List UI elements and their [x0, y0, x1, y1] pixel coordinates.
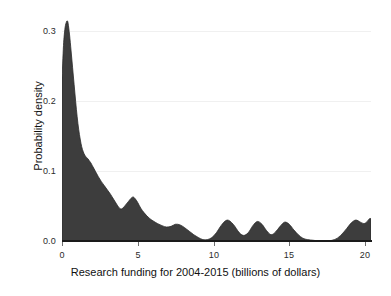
- x-tick-mark-15: [289, 242, 290, 246]
- y-axis-title-wrap: Probability density: [10, 0, 24, 240]
- x-tick-mark-10: [214, 242, 215, 246]
- x-tick-label-10: 10: [197, 250, 231, 260]
- x-tick-label-20: 20: [348, 250, 382, 260]
- y-tick-label-0-0: 0.0: [43, 236, 56, 246]
- y-tick-label-0-2: 0.2: [43, 96, 56, 106]
- y-axis-title: Probability density: [32, 36, 44, 216]
- y-tick-label-0-1: 0.1: [43, 166, 56, 176]
- density-curve-path: [62, 21, 371, 241]
- density-chart-figure: 0 5 10 15 20 0.3 0.2 0.1 0.0 Probability…: [0, 0, 391, 296]
- y-tick-label-0-3: 0.3: [43, 26, 56, 36]
- x-tick-mark-20: [365, 242, 366, 246]
- x-tick-mark-0: [62, 242, 63, 246]
- x-tick-label-5: 5: [121, 250, 155, 260]
- plot-area: [62, 14, 371, 241]
- x-tick-label-15: 15: [272, 250, 306, 260]
- x-axis-line: [62, 240, 372, 242]
- x-tick-mark-5: [138, 242, 139, 246]
- density-area-svg: [62, 14, 371, 241]
- x-axis-title: Research funding for 2004-2015 (billions…: [0, 266, 391, 278]
- y-tick-label-group: 0.3 0.2 0.1 0.0: [0, 0, 56, 296]
